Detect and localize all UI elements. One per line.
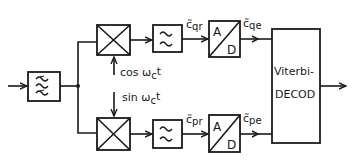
bandpass-filter-block	[28, 72, 60, 101]
adc-digital-label: D	[227, 138, 236, 152]
cos-carrier-label: cos ωct	[120, 65, 162, 81]
mixer-lower-block	[97, 118, 130, 150]
wire-upper-branch	[78, 42, 97, 86]
signal-c-qe-label: c̃qe	[243, 17, 262, 31]
adc-analog-label: A	[213, 120, 222, 134]
lowpass-filter-lower-block	[153, 120, 182, 148]
lowpass-filter-upper-block	[153, 25, 182, 52]
decod-label: DECOD	[275, 88, 315, 101]
adc-analog-label: A	[213, 25, 222, 39]
receiver-block-diagram: cos ωct sin ωct c̃qr c̃pr A D A D	[0, 0, 355, 165]
adc-upper-block: A D	[209, 21, 240, 57]
signal-c-pr-label: c̃pr	[186, 113, 203, 127]
wire-lower-branch	[78, 86, 97, 133]
viterbi-label: Viterbi-	[274, 65, 314, 78]
mixer-upper-block	[97, 25, 130, 55]
adc-digital-label: D	[227, 43, 236, 57]
viterbi-decoder-block: Viterbi- DECOD	[272, 29, 320, 143]
signal-c-qr-label: c̃qr	[186, 18, 203, 32]
sin-carrier-label: sin ωct	[122, 90, 161, 106]
signal-c-pe-label: c̃pe	[243, 112, 262, 126]
adc-lower-block: A D	[209, 115, 240, 152]
